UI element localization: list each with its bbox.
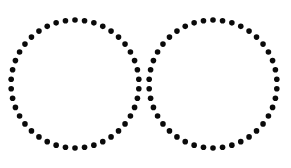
right-circle-dot [273, 95, 279, 101]
left-circle-dot [128, 113, 134, 119]
left-circle-dot [22, 121, 28, 127]
right-circle-dot [254, 34, 260, 40]
left-circle-dot [108, 28, 114, 34]
left-circle-dot [136, 76, 142, 82]
left-circle-dot [53, 20, 59, 26]
left-circle-dot [72, 17, 78, 23]
left-circle-dot [63, 144, 69, 150]
right-circle-dot [174, 28, 180, 34]
right-circle-dot [201, 18, 207, 24]
right-circle-dot [220, 144, 226, 150]
right-circle-dot [273, 67, 279, 73]
left-circle-dot [116, 34, 122, 40]
right-circle-dot [146, 76, 152, 82]
right-circle-dot [155, 113, 161, 119]
right-circle-dot [270, 105, 276, 111]
left-circle-dot [136, 86, 142, 92]
left-circle-dot [13, 105, 19, 111]
dotted-circles-figure [0, 0, 291, 168]
right-circle-dot [210, 145, 216, 151]
right-circle-dot [148, 67, 154, 73]
right-circle-dot [220, 18, 226, 24]
left-circle-dot [36, 28, 42, 34]
right-circle-dot [191, 20, 197, 26]
left-circle-dot [91, 20, 97, 26]
left-circle-dot [8, 76, 14, 82]
right-circle-dot [155, 49, 161, 55]
right-circle-dot [146, 86, 152, 92]
left-circle-dot [44, 24, 50, 30]
left-circle-dot [100, 24, 106, 30]
left-circle-dot [132, 105, 138, 111]
right-circle-dot [167, 128, 173, 134]
right-circle-dot [274, 76, 280, 82]
left-circle-dot [13, 58, 19, 64]
right-circle-dot [160, 121, 166, 127]
left-circle-dot [122, 121, 128, 127]
right-circle-dot [254, 128, 260, 134]
left-circle-dot [82, 18, 88, 24]
left-circle-dot [122, 41, 128, 47]
left-circle-dot [108, 134, 114, 140]
left-circle-dot [10, 95, 16, 101]
right-circle-dot [270, 58, 276, 64]
right-circle-dot [266, 49, 272, 55]
figure-background [0, 0, 291, 168]
left-circle-dot [44, 139, 50, 145]
right-circle-dot [229, 142, 235, 148]
left-circle-dot [53, 142, 59, 148]
left-circle-dot [29, 34, 35, 40]
right-circle-dot [229, 20, 235, 26]
figure-canvas [0, 0, 291, 168]
right-circle-dot [151, 105, 157, 111]
left-circle-dot [116, 128, 122, 134]
left-circle-dot [63, 18, 69, 24]
right-circle-dot [260, 41, 266, 47]
left-circle-dot [29, 128, 35, 134]
right-circle-dot [246, 28, 252, 34]
right-circle-dot [210, 17, 216, 23]
right-circle-dot [151, 58, 157, 64]
left-circle-dot [17, 49, 23, 55]
left-circle-dot [10, 67, 16, 73]
left-circle-dot [135, 67, 141, 73]
right-circle-dot [246, 134, 252, 140]
right-circle-dot [182, 24, 188, 30]
right-circle-dot [191, 142, 197, 148]
right-circle-dot [266, 113, 272, 119]
left-circle-dot [36, 134, 42, 140]
right-circle-dot [201, 144, 207, 150]
left-circle-dot [91, 142, 97, 148]
right-circle-dot [182, 139, 188, 145]
right-circle-dot [238, 24, 244, 30]
right-circle-dot [274, 86, 280, 92]
left-circle-dot [8, 86, 14, 92]
right-circle-dot [174, 134, 180, 140]
left-circle-dot [17, 113, 23, 119]
right-circle-dot [167, 34, 173, 40]
left-circle-dot [82, 144, 88, 150]
left-circle-dot [135, 95, 141, 101]
right-circle-dot [238, 139, 244, 145]
right-circle-dot [160, 41, 166, 47]
right-circle-dot [148, 95, 154, 101]
left-circle-dot [100, 139, 106, 145]
left-circle-dot [132, 58, 138, 64]
right-circle-dot [260, 121, 266, 127]
left-circle-dot [72, 145, 78, 151]
left-circle-dot [22, 41, 28, 47]
left-circle-dot [128, 49, 134, 55]
